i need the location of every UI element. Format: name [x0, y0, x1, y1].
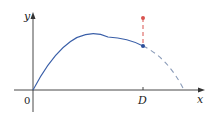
origin-label: 0: [24, 95, 30, 106]
x-axis-arrow-icon: [198, 88, 205, 93]
trajectory-dashed: [143, 46, 184, 90]
trajectory-solid: [33, 34, 143, 90]
blue-point: [141, 44, 145, 48]
d-label: D: [137, 94, 147, 107]
projectile-diagram: y x 0 D: [0, 0, 214, 117]
red-point: [141, 16, 145, 20]
y-axis-arrow-icon: [31, 12, 36, 19]
x-axis-label: x: [197, 93, 204, 106]
y-axis-label: y: [23, 10, 31, 23]
